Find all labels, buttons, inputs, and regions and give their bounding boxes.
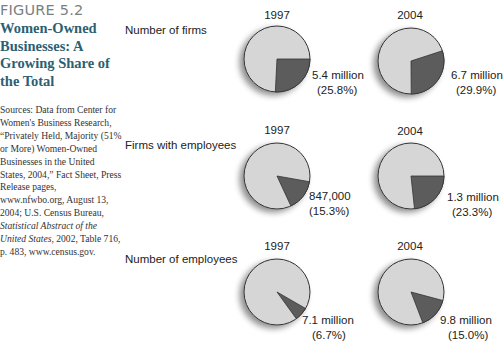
pie-chart [244,26,310,92]
pie-slice-women-owned [275,59,310,92]
pie-value-label: 847,000(15.3%) [309,189,351,219]
pie-value-label: 7.1 million(6.7%) [302,313,354,343]
pie-chart [244,143,310,209]
pie-chart [378,28,444,94]
pie-chart [378,259,444,325]
pie-value-label: 1.3 million(23.3%) [447,190,499,220]
pie-slice-women-owned [411,176,444,209]
pie-value-label: 6.7 million(29.9%) [451,68,503,98]
pie-chart [378,143,444,209]
pie-value-label: 9.8 million(15.0%) [440,313,492,343]
pie-value-label: 5.4 million(25.8%) [312,68,364,98]
pie-chart [244,259,310,325]
